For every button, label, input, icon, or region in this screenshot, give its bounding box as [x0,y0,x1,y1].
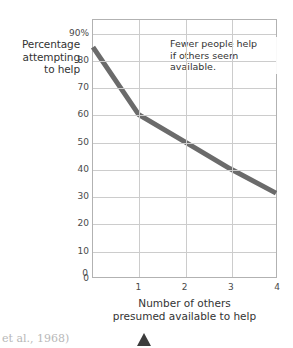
y-tick-label: 60 [56,109,89,119]
y-tick-label: 40 [56,164,89,174]
x-tick-label: 3 [228,282,234,292]
gridline-horizontal [93,224,276,225]
gridline-horizontal [93,88,276,89]
plot-area: Fewer people help if others seem availab… [92,19,277,278]
gridline-vertical [232,20,233,277]
x-tick-label: 2 [182,282,188,292]
gridline-horizontal [93,61,276,62]
x-axis-title-line-2: presumed available to help [92,310,277,323]
y-tick-label: 70 [56,82,89,92]
x-axis-zero-label: 0 [72,268,88,278]
y-tick-label: 30 [56,191,89,201]
gridline-horizontal [93,34,276,35]
gridline-vertical [186,20,187,277]
x-axis-title: Number of others presumed available to h… [92,297,277,322]
x-axis-tick-labels: 1234 [92,282,277,296]
gridline-horizontal [93,170,276,171]
x-tick-label: 4 [274,282,280,292]
x-axis-title-line-1: Number of others [92,297,277,310]
triangle-marker-icon [137,333,151,346]
y-tick-label: 50 [56,137,89,147]
y-tick-label: 10 [56,246,89,256]
gridline-horizontal [93,197,276,198]
gridline-horizontal [93,143,276,144]
x-tick-label: 1 [135,282,141,292]
chart-figure: Percentage attempting to help 90%8070605… [0,0,293,348]
gridline-horizontal [93,115,276,116]
source-caption: et al., 1968) [2,332,69,346]
gridline-horizontal [93,252,276,253]
gridline-vertical [139,20,140,277]
y-tick-label: 80 [56,55,89,65]
y-tick-label: 90% [56,28,89,38]
y-tick-label: 20 [56,218,89,228]
y-axis-tick-labels: 90%80706050403020100 [56,19,89,278]
